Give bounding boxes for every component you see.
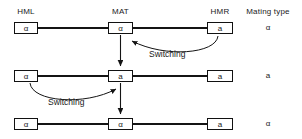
locus-box-hmr-row1: a — [207, 22, 233, 34]
chromosome-segment-row3-right — [132, 123, 208, 125]
locus-box-hml-row3: α — [14, 118, 38, 130]
locus-box-mat-row3: α — [108, 118, 133, 130]
mating-type-value-row3: α — [238, 119, 298, 128]
column-header-hml: HML — [14, 7, 38, 16]
chromosome-segment-row2-left — [37, 75, 109, 77]
column-header-mating-type: Mating type — [238, 7, 298, 16]
column-header-mat: MAT — [108, 7, 133, 16]
chromosome-segment-row1-left — [37, 27, 109, 29]
chromosome-segment-row1-right — [132, 27, 208, 29]
mating-type-value-row1: α — [238, 23, 298, 32]
locus-box-hmr-row3: a — [207, 118, 233, 130]
chromosome-segment-row2-right — [132, 75, 208, 77]
switching-label-2: Switching — [48, 97, 84, 107]
locus-box-mat-row2: a — [108, 70, 133, 82]
chromosome-segment-row3-left — [37, 123, 109, 125]
locus-box-mat-row1: α — [108, 22, 133, 34]
locus-box-hml-row1: α — [14, 22, 38, 34]
locus-box-hmr-row2: a — [207, 70, 233, 82]
switching-label-1: Switching — [149, 49, 185, 59]
mating-type-switching-diagram: HML MAT HMR Mating type α α a α α a a a … — [0, 0, 302, 139]
mating-type-value-row2: a — [238, 71, 298, 80]
locus-box-hml-row2: α — [14, 70, 38, 82]
column-header-hmr: HMR — [207, 7, 233, 16]
